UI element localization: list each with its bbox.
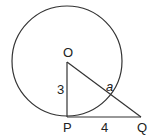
segment-oq [67,62,141,117]
segment-label-pq: 4 [101,121,108,134]
point-label-q: Q [137,121,147,134]
geometry-diagram: O 3 a P 4 Q [0,0,152,135]
angle-label-a: a [106,80,113,93]
point-label-o: O [63,46,73,59]
segment-label-op: 3 [57,83,64,96]
diagram-canvas [0,0,152,135]
point-label-p: P [63,121,72,134]
